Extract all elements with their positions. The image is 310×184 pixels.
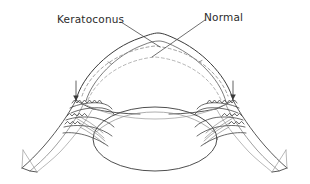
sclera-outer-upper-left bbox=[22, 100, 76, 168]
label-normal: Normal bbox=[204, 11, 243, 23]
crystalline-lens bbox=[93, 107, 217, 171]
label-keratoconus: Keratoconus bbox=[57, 13, 124, 25]
eye-cross-section-illustration bbox=[0, 0, 310, 184]
iris-left bbox=[93, 109, 140, 114]
sclera-cut-edge-right-tick bbox=[286, 150, 287, 168]
sclera-outer-lower-left bbox=[30, 105, 83, 171]
normal-cornea-outer bbox=[82, 46, 228, 96]
sclera-cut-edge-right-tick2 bbox=[272, 150, 286, 172]
sclera-outer-upper-right bbox=[233, 100, 287, 168]
sclera-cut-edge-left-tick bbox=[22, 150, 23, 168]
cornea-tick-left bbox=[108, 62, 111, 64]
keratoconus-cornea-inner bbox=[86, 41, 226, 102]
sclera-outer-lower-right bbox=[226, 105, 279, 171]
zonular-fibers-left bbox=[74, 114, 105, 144]
sclera-cut-edge-left-tick2 bbox=[23, 150, 37, 172]
eye-diagram-figure: Keratoconus Normal bbox=[0, 0, 310, 184]
limbus-arrow-right-head bbox=[230, 95, 236, 101]
zonular-fibers-right bbox=[204, 114, 235, 144]
